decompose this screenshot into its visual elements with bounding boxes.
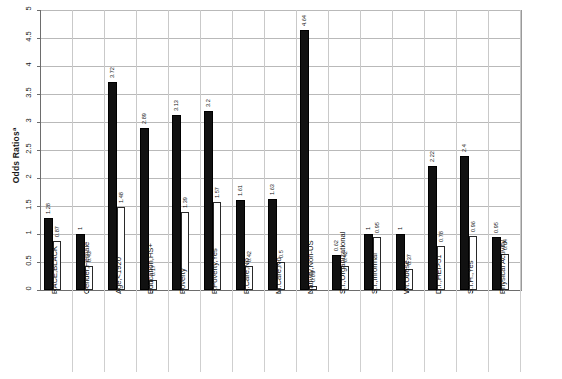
x-axis-divider [328, 290, 329, 372]
bar-value-label: 1.61 [238, 185, 244, 196]
bar-value-label: 0.78 [438, 231, 444, 242]
x-axis-divider [264, 290, 265, 372]
bar-value-label: 0.87 [54, 226, 60, 237]
x-axis-divider [392, 290, 393, 372]
y-axis-tick-mark [37, 290, 41, 291]
x-axis-divider [136, 290, 137, 372]
bar-group: 3.131.39 [169, 10, 201, 290]
y-axis-tick-label: 1.5 [24, 196, 33, 214]
x-axis-label: Poverty [178, 268, 187, 294]
bar-value-label: 2.22 [430, 151, 436, 162]
x-axis-label: Gender,Female [82, 242, 91, 294]
y-axis-title-superscript: a [11, 128, 17, 132]
bar-value-label: 1 [78, 227, 84, 230]
x-axis-divider [520, 290, 521, 372]
plot-area: 00.511.522.533.544.55 1.280.8710.433.721… [40, 10, 522, 291]
x-axis-label: S.I.,Organizational [338, 232, 347, 294]
x-axis-label: Physical Activity [498, 240, 507, 294]
y-axis-title-text: Odds Ratios [11, 131, 21, 183]
bar-group: 3.721.48 [105, 10, 137, 290]
y-axis-tick-label: 1 [24, 224, 33, 242]
bar-value-label: 1.63 [270, 184, 276, 195]
x-axis-label: S.I.H.,Yes [466, 261, 475, 295]
x-axis-divider [200, 290, 201, 372]
bar-value-label: 1.57 [214, 187, 220, 198]
bar-value-label: 1 [366, 227, 372, 230]
x-axis-label: M.Care,No [274, 257, 283, 294]
bar-solid: 3.13 [172, 115, 180, 290]
x-axis-label: S.I.,Informal [370, 253, 379, 294]
bar-value-label: 2.4 [462, 144, 468, 152]
y-axis-tick-label: 5 [24, 0, 33, 18]
x-axis-label: P.Poverty,Yes [210, 248, 219, 294]
group-separator [520, 10, 521, 290]
x-axis-label: RACE,BLACK [50, 246, 59, 294]
bar-group: 2.220.78 [425, 10, 457, 290]
y-axis-tick-label: 0.5 [24, 252, 33, 270]
bar-value-label: 1.39 [182, 197, 188, 208]
bar-value-label: 0.95 [374, 222, 380, 233]
bar-value-label: 0.96 [470, 221, 476, 232]
y-axis-tick-label: 2 [24, 168, 33, 186]
x-axis-divider [488, 290, 489, 372]
y-axis-title: Odds Ratiosa [11, 95, 22, 215]
bar-group: 10.95 [361, 10, 393, 290]
y-axis-tick-label: 3 [24, 112, 33, 130]
bar-value-label: 1.28 [46, 203, 52, 214]
x-axis-label: Nativity,Non-US [306, 241, 315, 294]
x-axis-divider [296, 290, 297, 372]
y-axis-tick-label: 4.5 [24, 28, 33, 46]
bar-value-label: 3.2 [206, 99, 212, 107]
bar-value-label: 3.13 [174, 100, 180, 111]
bar-value-label: 2.89 [142, 113, 148, 124]
x-axis-divider [360, 290, 361, 372]
x-axis-label: Wt.Obese [402, 260, 411, 294]
bar-value-label: 1 [398, 227, 404, 230]
y-axis-tick-label: 3.5 [24, 84, 33, 102]
x-axis-divider [424, 290, 425, 372]
bar-rect [172, 115, 180, 290]
x-axis-label: Age,<1920 [114, 257, 123, 294]
x-axis-divider [168, 290, 169, 372]
bar-group: 2.40.96 [457, 10, 489, 290]
bar-value-label: 4.64 [302, 15, 308, 26]
bar-value-label: 3.72 [110, 67, 116, 78]
x-axis-divider [72, 290, 73, 372]
x-axis-divider [104, 290, 105, 372]
bar-group: 10.37 [393, 10, 425, 290]
x-axis-divider [456, 290, 457, 372]
x-axis-divider [232, 290, 233, 372]
bar-group: 1.610.42 [233, 10, 265, 290]
bar-value-label: 0.95 [494, 222, 500, 233]
y-axis-tick-label: 4 [24, 56, 33, 74]
x-axis-label: D.I.,HEI>51 [434, 255, 443, 294]
y-axis-tick-label: 0 [24, 280, 33, 298]
bar-value-label: 1.48 [118, 192, 124, 203]
y-axis-tick-label: 2.5 [24, 140, 33, 158]
x-axis-label: R.Care,No [242, 258, 251, 294]
bar-group: 1.630.5 [265, 10, 297, 290]
odds-ratio-bar-chart: Odds Ratiosa 00.511.522.533.544.55 1.280… [0, 0, 562, 379]
x-axis-label: Education,HS+ [146, 243, 155, 294]
